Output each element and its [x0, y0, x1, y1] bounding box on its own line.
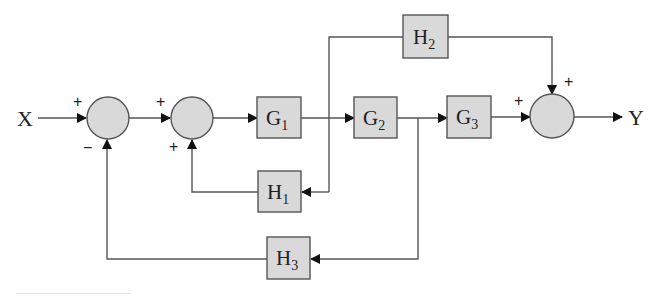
summing-junction-1 [87, 97, 129, 139]
block-g3: G3 [447, 96, 491, 138]
wire-h2-to-s3 [448, 37, 552, 94]
block-g1: G1 [257, 97, 301, 138]
block-h2: H2 [403, 15, 448, 58]
summing-junction-3 [530, 94, 574, 138]
s3-plus-sign-top: + [564, 73, 573, 90]
s1-plus-sign: + [73, 93, 82, 110]
footer-rule [16, 293, 131, 294]
block-g2: G2 [354, 97, 397, 138]
s1-minus-sign: − [83, 139, 92, 156]
block-h3: H3 [267, 237, 310, 279]
block-h1: H1 [258, 171, 301, 212]
block-diagram: G1 G2 G3 H1 H2 H3 X Y + − + + + + [0, 0, 653, 296]
output-label: Y [628, 105, 644, 130]
s2-plus-sign-bottom: + [169, 138, 178, 155]
wire-to-h3 [311, 118, 418, 259]
input-label: X [17, 106, 33, 131]
wire-h3-to-s1 [107, 140, 267, 259]
wire-h1-to-s2 [192, 140, 258, 192]
s2-plus-sign-top: + [156, 93, 165, 110]
summing-junction-2 [171, 97, 213, 139]
s3-plus-sign-left: + [514, 92, 523, 109]
